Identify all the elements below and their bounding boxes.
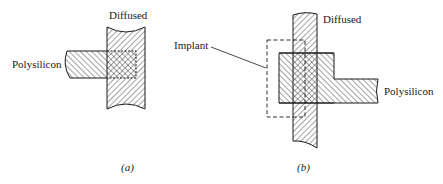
polysilicon-region-a <box>65 51 136 78</box>
panel-a: Diffused Polysilicon (a) <box>12 9 148 174</box>
implant-leader-line <box>211 47 266 68</box>
diffused-label-b: Diffused <box>323 13 362 25</box>
caption-a: (a) <box>121 161 134 174</box>
polysilicon-label-a: Polysilicon <box>12 58 62 70</box>
polysilicon-label-b: Polysilicon <box>384 85 434 97</box>
implant-label-b: Implant <box>174 39 208 51</box>
diagram-canvas: Diffused Polysilicon (a) Implant Diffuse… <box>0 0 443 184</box>
caption-b: (b) <box>297 161 310 174</box>
diffused-label-a: Diffused <box>109 9 148 21</box>
panel-b: Implant Diffused Polysilicon (b) <box>174 13 434 174</box>
